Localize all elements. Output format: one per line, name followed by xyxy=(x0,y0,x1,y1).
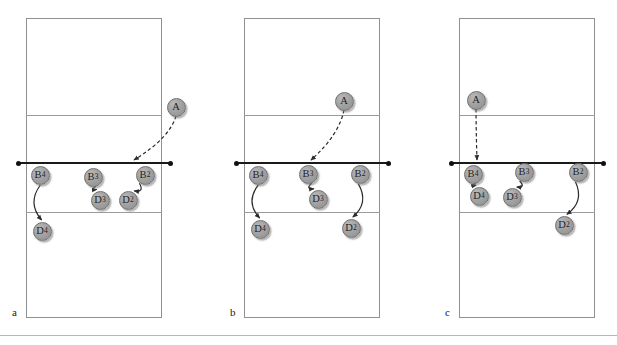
player-marker-a: A xyxy=(335,92,354,111)
player-marker-subscript: 3 xyxy=(514,193,518,201)
player-marker-base: D xyxy=(473,191,481,202)
net-post-right xyxy=(601,161,606,166)
attack-line-top xyxy=(244,115,380,116)
player-marker-subscript: 2 xyxy=(566,221,570,229)
player-marker-base: B xyxy=(354,169,361,180)
player-marker-base: D xyxy=(254,224,262,235)
net-post-left xyxy=(449,161,454,166)
player-marker-d3: D3 xyxy=(309,190,328,209)
player-marker-b3: B3 xyxy=(515,163,534,182)
attack-line-bottom xyxy=(244,212,380,213)
player-marker-d2: D2 xyxy=(555,216,574,235)
attack-line-top xyxy=(459,115,595,116)
player-marker-b2: B2 xyxy=(351,165,370,184)
footer-rule xyxy=(0,335,617,336)
player-marker-base: B xyxy=(467,169,474,180)
panel-label-c: c xyxy=(445,306,450,318)
net-post-left xyxy=(234,161,239,166)
player-marker-subscript: 4 xyxy=(262,225,266,233)
player-marker-d4: D4 xyxy=(251,220,270,239)
player-marker-b2: B2 xyxy=(569,163,588,182)
movement-arrows xyxy=(0,0,205,345)
player-marker-subscript: 2 xyxy=(362,170,366,178)
player-marker-base: B xyxy=(518,167,525,178)
player-marker-b3: B3 xyxy=(299,165,318,184)
player-marker-b4: B4 xyxy=(249,166,268,185)
panel-label-b: b xyxy=(230,306,236,318)
player-marker-d3: D3 xyxy=(503,188,522,207)
player-marker-b4: B4 xyxy=(464,165,483,184)
net-line xyxy=(236,162,388,164)
attack-line-bottom xyxy=(459,212,595,213)
player-marker-subscript: 4 xyxy=(475,170,479,178)
player-marker-subscript: 2 xyxy=(353,224,357,232)
player-marker-a: A xyxy=(467,91,486,110)
player-marker-subscript: 2 xyxy=(580,168,584,176)
player-marker-base: D xyxy=(345,223,353,234)
player-marker-subscript: 3 xyxy=(310,170,314,178)
player-marker-base: B xyxy=(572,167,579,178)
player-marker-base: B xyxy=(252,170,259,181)
player-marker-base: B xyxy=(302,169,309,180)
player-marker-base: D xyxy=(558,220,566,231)
volleyball-diagram-figure: AB4B3B2D3D2D4aAB4B3B2D3D4D2bAB4B3B2D4D3D… xyxy=(0,0,617,345)
player-marker-subscript: 3 xyxy=(320,195,324,203)
player-marker-d2: D2 xyxy=(342,219,361,238)
player-marker-base: A xyxy=(340,96,348,107)
player-marker-base: D xyxy=(312,194,320,205)
panel-c: AB4B3B2D4D3D2c xyxy=(0,0,205,345)
net-post-right xyxy=(386,161,391,166)
player-marker-d4: D4 xyxy=(470,187,489,206)
player-marker-base: A xyxy=(472,95,480,106)
player-marker-subscript: 3 xyxy=(526,168,530,176)
player-marker-subscript: 4 xyxy=(481,192,485,200)
player-marker-subscript: 4 xyxy=(260,171,264,179)
player-marker-base: D xyxy=(506,192,514,203)
